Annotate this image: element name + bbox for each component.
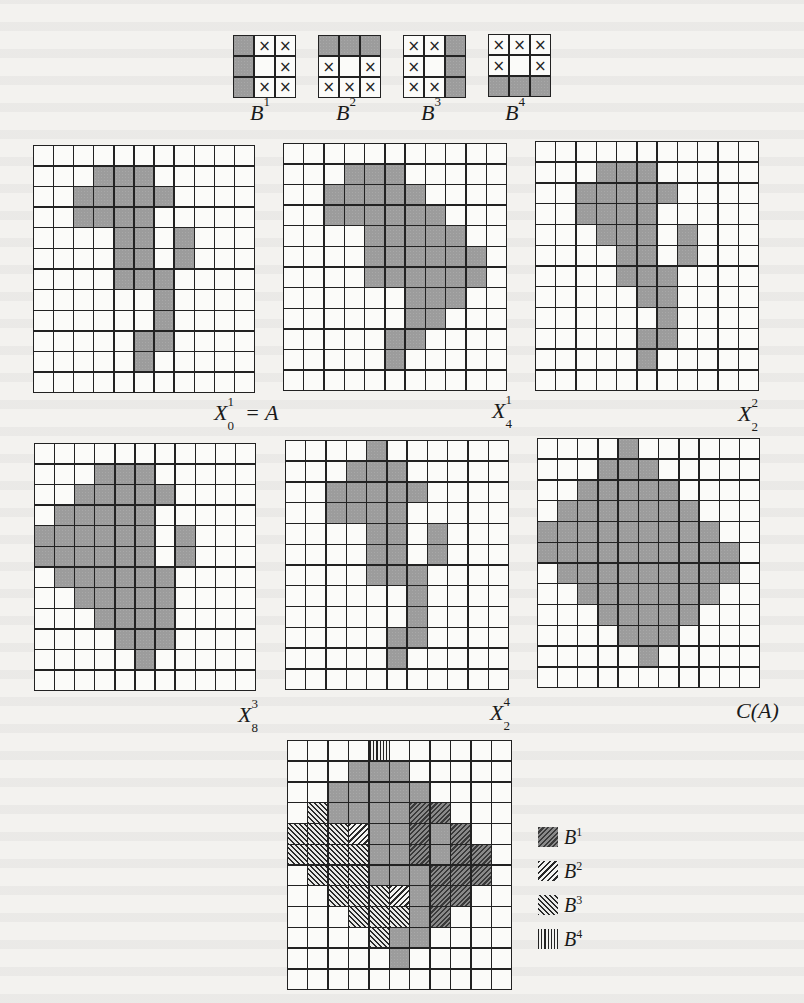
pattern-b1-cell: [431, 886, 450, 905]
grid-cell: [35, 588, 54, 607]
shaded-cell: [531, 77, 550, 96]
grid-cell: [196, 588, 215, 607]
shaded-cell: [619, 481, 638, 500]
grid-cell: [116, 650, 135, 669]
shaded-cell: [136, 588, 155, 607]
shaded-cell: [365, 206, 384, 225]
grid-cell: [115, 373, 134, 392]
grid-cell: [308, 949, 327, 968]
grid-cell: [410, 949, 429, 968]
shaded-cell: [329, 803, 348, 822]
grid-cell: [538, 460, 557, 479]
grid-cell: [469, 566, 488, 585]
shaded-cell: [406, 206, 425, 225]
grid-cell: [720, 501, 739, 520]
shaded-cell: [115, 208, 134, 227]
grid-cell: [578, 439, 597, 458]
grid-cell: [175, 208, 194, 227]
shaded-cell: [597, 225, 616, 244]
shaded-cell: [386, 330, 405, 349]
grid-cell: [325, 371, 344, 390]
grid-cell: [390, 741, 409, 760]
grid-cell: [156, 526, 175, 545]
grid-cell: [678, 142, 697, 161]
grid-cell: [135, 146, 154, 165]
shaded-cell: [116, 485, 135, 504]
shaded-cell: [597, 184, 616, 203]
shaded-cell: [55, 526, 74, 545]
grid-cell: [175, 290, 194, 309]
grid-cell: [489, 462, 508, 481]
grid-cell: [556, 329, 575, 348]
shaded-cell: [94, 187, 113, 206]
shaded-cell: [577, 204, 596, 223]
template-b2-label: B2: [336, 100, 349, 126]
pattern-b3-cell: [329, 866, 348, 885]
cross-cell: [276, 36, 295, 55]
grid-cell: [235, 270, 254, 289]
grid-cell: [431, 928, 450, 947]
grid-cell: [739, 142, 758, 161]
grid-cell: [638, 371, 657, 390]
grid-cell: [176, 485, 195, 504]
legend-item-b2: B2: [538, 854, 582, 888]
grid-cell: [235, 208, 254, 227]
shaded-cell: [639, 481, 658, 500]
grid-cell: [556, 350, 575, 369]
grid-cell: [492, 845, 511, 864]
shaded-cell: [390, 949, 409, 968]
shaded-cell: [340, 36, 359, 55]
grid-cell: [678, 371, 697, 390]
shaded-cell: [388, 545, 407, 564]
shaded-cell: [136, 568, 155, 587]
shaded-cell: [175, 228, 194, 247]
shaded-cell: [116, 588, 135, 607]
grid-cell: [386, 371, 405, 390]
grid-cell: [538, 439, 557, 458]
grid-cell: [74, 249, 93, 268]
shaded-cell: [74, 187, 93, 206]
grid-cell: [306, 524, 325, 543]
grid-cell: [55, 485, 74, 504]
pattern-b3-cell: [349, 907, 368, 926]
shaded-cell: [639, 584, 658, 603]
shaded-cell: [388, 462, 407, 481]
shaded-cell: [156, 588, 175, 607]
grid-cell: [327, 628, 346, 647]
shaded-cell: [156, 568, 175, 587]
grid-cell: [680, 647, 699, 666]
grid-cell: [215, 167, 234, 186]
shaded-cell: [638, 204, 657, 223]
grid-cell: [235, 332, 254, 351]
grid-cell: [370, 970, 389, 989]
shaded-cell: [390, 824, 409, 843]
pattern-b1-cell: [472, 845, 491, 864]
grid-cell: [288, 783, 307, 802]
grid-cell: [54, 332, 73, 351]
grid-cell: [235, 352, 254, 371]
grid-cell: [349, 949, 368, 968]
shaded-cell: [135, 352, 154, 371]
grid-cell: [347, 441, 366, 460]
shaded-cell: [617, 267, 636, 286]
grid-cell: [195, 270, 214, 289]
template-b1-label: B1: [250, 100, 263, 126]
grid-cell: [308, 783, 327, 802]
grid-cell: [35, 650, 54, 669]
grid-cell: [215, 249, 234, 268]
grid-cell: [306, 670, 325, 689]
grid-cell: [175, 311, 194, 330]
legend-item-b4: B4: [538, 922, 582, 956]
grid-cell: [195, 228, 214, 247]
grid-cell: [617, 350, 636, 369]
grid-cell: [325, 309, 344, 328]
shaded-cell: [386, 165, 405, 184]
grid-cell: [428, 649, 447, 668]
grid-cell: [617, 329, 636, 348]
grid-cell: [347, 607, 366, 626]
grid-cell: [469, 462, 488, 481]
shaded-cell: [489, 77, 508, 96]
grid-cell: [155, 167, 174, 186]
grid-cell: [740, 626, 759, 645]
panel-x2-4-grid: [285, 440, 509, 690]
